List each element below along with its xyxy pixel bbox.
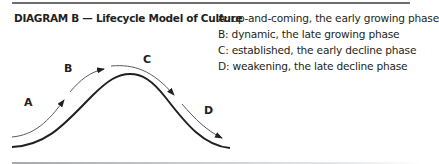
bottom-rule <box>12 162 422 164</box>
phase-label-d: D <box>204 104 213 117</box>
lifecycle-curve <box>12 74 230 148</box>
arrow-phase-c <box>111 66 174 95</box>
phase-label-c: C <box>143 53 151 66</box>
phase-label-a: A <box>24 96 33 109</box>
arrow-phase-d <box>182 104 222 138</box>
phase-label-b: B <box>64 62 72 75</box>
